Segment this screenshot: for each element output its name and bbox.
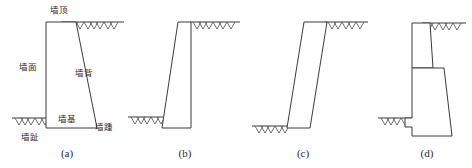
label-wall-back-a: 墙背 bbox=[75, 68, 93, 78]
caption-c: (c) bbox=[297, 147, 310, 160]
panel-d: (d) bbox=[378, 23, 466, 160]
panel-c: (c) bbox=[252, 22, 368, 160]
ground-hatch-a-left bbox=[15, 118, 49, 125]
label-wall-heel-a: 墙踵 bbox=[95, 122, 113, 132]
retaining-wall-figure: 墙顶 墙面 墙背 墙基 墙踵 墙趾 (a) (b) (c) bbox=[0, 0, 472, 168]
caption-b: (b) bbox=[179, 147, 192, 160]
ground-hatch-c-right bbox=[328, 22, 364, 29]
caption-d: (d) bbox=[421, 147, 434, 160]
ground-hatch-b-left bbox=[131, 117, 165, 124]
label-wall-face-a: 墙面 bbox=[19, 62, 37, 72]
label-wall-top-a: 墙顶 bbox=[50, 5, 68, 15]
ground-hatch-c-left bbox=[255, 126, 289, 133]
wall-upper-step-d bbox=[412, 23, 433, 68]
label-wall-toe-a: 墙趾 bbox=[21, 132, 39, 142]
panel-a: 墙顶 墙面 墙背 墙基 墙踵 墙趾 (a) bbox=[12, 5, 124, 160]
wall-body-c bbox=[287, 22, 327, 128]
caption-a: (a) bbox=[61, 147, 74, 160]
label-wall-base-a: 墙基 bbox=[58, 114, 76, 124]
wall-body-b bbox=[162, 22, 191, 128]
panel-b: (b) bbox=[128, 22, 240, 160]
ground-hatch-b-right bbox=[193, 22, 235, 29]
wall-lower-body-d bbox=[405, 68, 452, 136]
